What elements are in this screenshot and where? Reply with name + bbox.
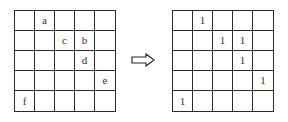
right-grid-cell-r1-c4 <box>253 31 273 51</box>
right-grid-cell-r3-c2 <box>213 71 233 91</box>
right-grid-cell-r1-c1 <box>193 31 213 51</box>
right-grid-cell-r2-c0 <box>173 51 193 71</box>
left-grid-cell-r1-c3: b <box>75 31 95 51</box>
left-grid-cell-r4-c3 <box>75 91 95 111</box>
right-grid-cell-r2-c4 <box>253 51 273 71</box>
left-grid-cell-r3-c2 <box>55 71 75 91</box>
left-grid-cell-r2-c0 <box>15 51 35 71</box>
right-grid-cell-r2-c3: 1 <box>233 51 253 71</box>
left-grid-cell-r0-c4 <box>95 11 115 31</box>
right-grid-cell-r1-c2: 1 <box>213 31 233 51</box>
left-grid-cell-r4-c0: f <box>15 91 35 111</box>
left-grid-cell-r2-c2 <box>55 51 75 71</box>
left-grid-cell-r2-c1 <box>35 51 55 71</box>
left-grid-cell-r4-c1 <box>35 91 55 111</box>
left-letter-grid: acbdef <box>14 10 116 112</box>
right-grid-cell-r0-c4 <box>253 11 273 31</box>
left-grid-cell-r1-c4 <box>95 31 115 51</box>
left-grid-cell-r4-c4 <box>95 91 115 111</box>
left-grid-cell-r3-c0 <box>15 71 35 91</box>
right-grid-cell-r2-c1 <box>193 51 213 71</box>
right-grid-cell-r0-c1: 1 <box>193 11 213 31</box>
left-grid-cell-r0-c2 <box>55 11 75 31</box>
right-number-grid: 111111 <box>172 10 274 112</box>
left-grid-cell-r2-c4 <box>95 51 115 71</box>
left-grid-cell-r1-c0 <box>15 31 35 51</box>
right-grid-cell-r0-c0 <box>173 11 193 31</box>
right-grid-cell-r4-c0: 1 <box>173 91 193 111</box>
left-grid-cell-r4-c2 <box>55 91 75 111</box>
right-grid-cell-r3-c1 <box>193 71 213 91</box>
right-grid-cell-r4-c2 <box>213 91 233 111</box>
left-grid-cell-r3-c4: e <box>95 71 115 91</box>
left-grid-cell-r3-c3 <box>75 71 95 91</box>
right-grid-cell-r1-c3: 1 <box>233 31 253 51</box>
left-grid-cell-r3-c1 <box>35 71 55 91</box>
right-grid-cell-r0-c3 <box>233 11 253 31</box>
left-grid-cell-r1-c1 <box>35 31 55 51</box>
right-grid-cell-r3-c3 <box>233 71 253 91</box>
right-grid-cell-r3-c0 <box>173 71 193 91</box>
hollow-right-arrow-icon <box>131 53 155 67</box>
left-grid-cell-r0-c3 <box>75 11 95 31</box>
right-grid-cell-r2-c2 <box>213 51 233 71</box>
right-grid-cell-r4-c1 <box>193 91 213 111</box>
right-grid-cell-r3-c4: 1 <box>253 71 273 91</box>
right-grid-cell-r4-c3 <box>233 91 253 111</box>
right-grid-cell-r1-c0 <box>173 31 193 51</box>
left-grid-cell-r1-c2: c <box>55 31 75 51</box>
right-grid-cell-r4-c4 <box>253 91 273 111</box>
left-grid-cell-r0-c0 <box>15 11 35 31</box>
right-grid-cell-r0-c2 <box>213 11 233 31</box>
left-grid-cell-r0-c1: a <box>35 11 55 31</box>
left-grid-cell-r2-c3: d <box>75 51 95 71</box>
